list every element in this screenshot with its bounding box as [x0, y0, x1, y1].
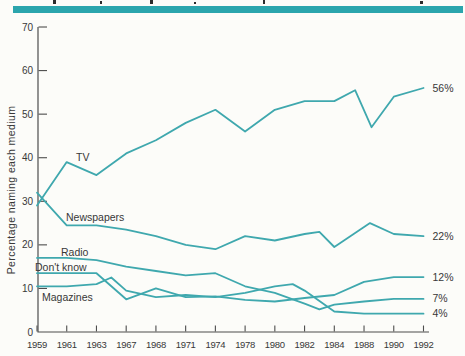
x-tick-label: 1984	[324, 339, 344, 350]
y-tick-label: 10	[22, 283, 34, 294]
x-tick-label: 1971	[176, 339, 196, 350]
x-tick-label: 1959	[27, 339, 47, 350]
cropped-title-fragments	[53, 0, 423, 4]
y-tick-label: 30	[22, 196, 34, 207]
axes	[38, 27, 429, 332]
end-value-label-dont-know: 12%	[432, 271, 453, 283]
series-label-radio: Radio	[61, 246, 89, 258]
end-value-label-radio: 7%	[432, 292, 447, 304]
x-tick-label: 1980	[265, 339, 285, 350]
plot-area: 0102030405060701959196119631967196819711…	[22, 22, 454, 350]
x-tick-label: 1968	[146, 339, 166, 350]
series-label-tv: TV	[76, 151, 89, 163]
series-label-magazines: Magazines	[42, 291, 93, 303]
x-tick-label: 1967	[116, 339, 136, 350]
x-tick-label: 1963	[86, 339, 106, 350]
y-axis-title: Percentage naming each medium	[5, 106, 17, 275]
x-tick-label: 1990	[384, 339, 404, 350]
x-tick-label: 1992	[414, 339, 434, 350]
y-tick-label: 0	[27, 327, 33, 338]
series-line-tv	[37, 88, 424, 206]
x-tick-label: 1978	[235, 339, 255, 350]
chart-page: 0102030405060701959196119631967196819711…	[0, 0, 465, 356]
series-label-newspapers: Newspapers	[66, 211, 124, 223]
x-tick-label: 1988	[354, 339, 374, 350]
x-tick-label: 1961	[57, 339, 77, 350]
end-value-label-magazines: 4%	[432, 307, 447, 319]
y-tick-label: 60	[22, 65, 34, 76]
x-tick-label: 1982	[295, 339, 315, 350]
y-tick-label: 20	[22, 239, 34, 250]
accent-bar	[13, 6, 463, 13]
y-tick-label: 50	[22, 109, 34, 120]
end-value-label-tv: 56%	[432, 82, 453, 94]
series-label-dont-know: Don't know	[35, 261, 87, 273]
series-line-dont-know	[37, 273, 424, 301]
media-believability-line-chart: 0102030405060701959196119631967196819711…	[0, 0, 465, 356]
end-value-label-newspapers: 22%	[432, 230, 453, 242]
y-tick-label: 70	[22, 22, 34, 33]
x-tick-label: 1974	[205, 339, 225, 350]
y-tick-label: 40	[22, 152, 34, 163]
series-line-magazines	[37, 278, 424, 314]
